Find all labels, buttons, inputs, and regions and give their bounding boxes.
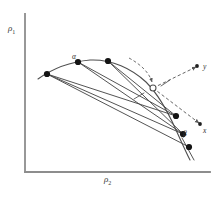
vector-tip-group (195, 64, 202, 126)
data-points-group (44, 58, 192, 150)
y-vector-label: y (203, 63, 206, 71)
x-vector-label: x (203, 127, 206, 135)
arc-curve-group (38, 60, 190, 160)
data-point (44, 71, 50, 77)
open-marker-group (150, 85, 156, 91)
scatter-diagram-canvas (0, 0, 222, 201)
chord-lines-group (47, 61, 189, 147)
alpha-label: α (72, 53, 76, 61)
beta-label: β (183, 130, 187, 138)
open-circle-marker (150, 85, 156, 91)
chord-line (108, 61, 176, 116)
y-vector-tip (195, 64, 199, 68)
curved-dashed-arrow (129, 58, 152, 82)
tick-mark (161, 80, 170, 86)
x-axis-label: ρ2 (104, 175, 111, 186)
x-axis-label-subscript: 2 (108, 180, 111, 186)
y-axis-label-subscript: 1 (12, 29, 15, 35)
data-point (105, 58, 111, 64)
chord-line (47, 74, 189, 147)
x-vector-tip (198, 122, 202, 126)
data-point (173, 113, 179, 119)
y-vector-arrow (153, 67, 196, 88)
curved-dashed-arrow-group (129, 58, 152, 82)
upper-arc-curve (38, 60, 190, 160)
axes-group (25, 14, 210, 172)
figure-container: ρ1 ρ2 α β x y (0, 0, 222, 201)
data-point (186, 144, 192, 150)
y-axis-label: ρ1 (8, 24, 15, 35)
